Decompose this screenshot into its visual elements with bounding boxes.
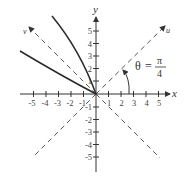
svg-text:2: 2	[88, 64, 92, 74]
svg-text:-3: -3	[85, 127, 92, 137]
svg-text:-2: -2	[85, 115, 92, 125]
svg-text:-1: -1	[85, 102, 92, 112]
svg-text:-5: -5	[28, 98, 35, 108]
svg-text:π: π	[157, 55, 162, 66]
svg-text:5: 5	[88, 26, 92, 36]
y-axis-label: y	[92, 3, 98, 15]
svg-text:-4: -4	[85, 140, 93, 150]
angle-annotation: θ = π 4	[135, 55, 166, 79]
x-axis-label: x	[171, 87, 177, 99]
svg-text:=: =	[145, 59, 152, 73]
dashed-v-axis	[29, 27, 96, 94]
svg-text:-5: -5	[85, 152, 92, 162]
svg-text:-4: -4	[41, 98, 49, 108]
curve-lower-branch	[20, 51, 96, 94]
svg-text:4: 4	[88, 39, 93, 49]
dashed-u-axis	[96, 26, 165, 94]
u-axis-label: u	[166, 26, 170, 35]
dashed-v-axis-negative	[96, 94, 160, 158]
svg-text:θ: θ	[135, 59, 141, 73]
svg-text:-2: -2	[66, 98, 73, 108]
rotated-axes-diagram: -5 -4 -3 -2 -1 1 2 3 4 5 5 4 3 2 1 -1 -2…	[0, 0, 192, 177]
svg-text:2: 2	[119, 98, 123, 108]
svg-text:4: 4	[144, 98, 149, 108]
svg-text:-3: -3	[54, 98, 61, 108]
svg-text:3: 3	[132, 98, 136, 108]
angle-arc-icon	[123, 70, 129, 94]
svg-text:1: 1	[107, 98, 111, 108]
svg-text:4: 4	[157, 68, 162, 79]
svg-text:3: 3	[88, 51, 92, 61]
svg-text:5: 5	[157, 98, 161, 108]
v-axis-label: v	[23, 27, 27, 36]
